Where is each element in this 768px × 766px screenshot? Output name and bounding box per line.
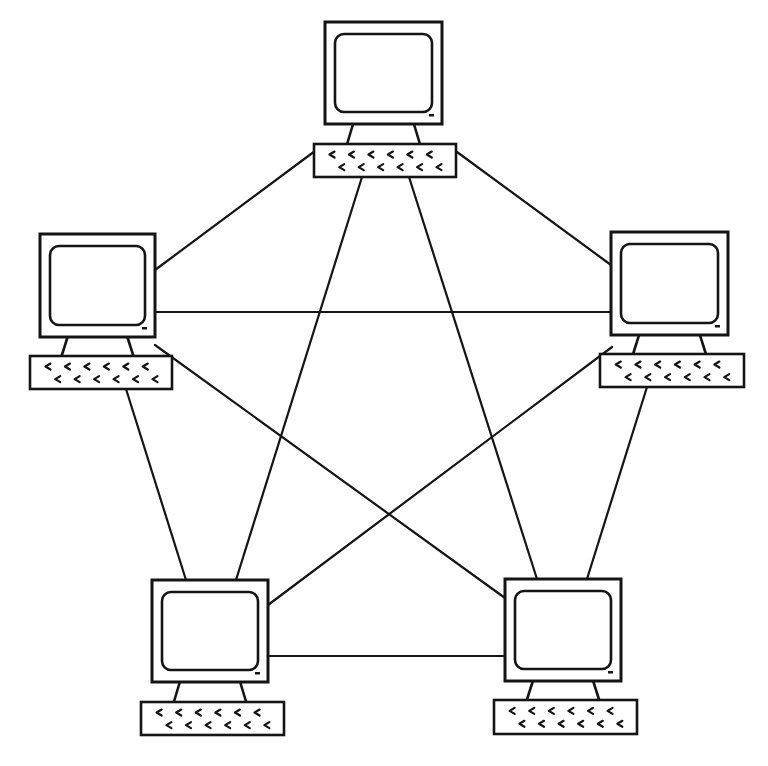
link-left-to-bottom-right <box>155 345 505 598</box>
computer-node-bottom-left: Computer (bottom-left) <box>141 580 284 735</box>
link-top-to-right <box>457 152 611 265</box>
link-left-to-top <box>155 151 315 270</box>
power-led-icon <box>255 672 260 675</box>
link-right-to-bottom-left <box>268 347 612 605</box>
monitor-screen <box>162 592 258 670</box>
monitor-stand-right <box>700 335 706 354</box>
computer-node-top: Computer (top) <box>314 22 456 177</box>
link-top-to-bottom-left <box>236 177 362 580</box>
computer-nodes: Computer (top)Computer (left)Computer (r… <box>30 22 744 735</box>
monitor-stand-right <box>593 681 599 700</box>
link-top-to-bottom-right <box>409 177 537 579</box>
keyboard-icon <box>600 354 744 387</box>
monitor-stand-left <box>174 682 180 702</box>
computer-node-bottom-right: Computer (bottom-right) <box>494 579 637 734</box>
power-led-icon <box>715 325 720 328</box>
monitor-screen <box>515 591 611 669</box>
monitor-stand-right <box>414 124 420 144</box>
monitor-screen <box>335 34 432 112</box>
keyboard-icon <box>30 356 172 389</box>
monitor-screen <box>50 246 145 325</box>
monitor-stand-right <box>127 337 133 356</box>
monitor-stand-left <box>62 337 68 356</box>
keyboard-icon <box>141 702 284 735</box>
keyboard-icon <box>494 700 637 734</box>
monitor-screen <box>621 244 718 323</box>
power-led-icon <box>142 327 147 330</box>
keyboard-icon <box>314 144 456 177</box>
monitor-stand-left <box>347 124 353 144</box>
power-led-icon <box>429 114 434 117</box>
link-right-to-bottom-right <box>587 387 647 579</box>
mesh-network-diagram: Computer (top)Computer (left)Computer (r… <box>0 0 768 766</box>
computer-node-right: Computer (right) <box>600 232 744 387</box>
monitor-stand-left <box>633 335 639 354</box>
link-left-to-bottom-left <box>126 389 186 580</box>
monitor-stand-right <box>240 682 246 702</box>
monitor-stand-left <box>527 681 533 700</box>
computer-node-left: Computer (left) <box>30 234 172 389</box>
power-led-icon <box>608 671 613 674</box>
